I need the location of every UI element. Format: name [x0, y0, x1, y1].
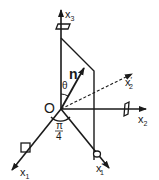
- angle-denominator: 4: [56, 131, 62, 142]
- theta-arc: [61, 94, 68, 96]
- x2-prime-label: x′2: [125, 75, 133, 90]
- x1-axis: [12, 109, 61, 170]
- angle-numerator: π: [56, 120, 63, 131]
- x1-label: x1: [20, 166, 30, 180]
- x2-label: x2: [138, 113, 148, 127]
- x1-face-marker: [21, 143, 30, 152]
- theta-label: θ: [62, 80, 68, 91]
- x1-prime-face-marker: [94, 151, 101, 157]
- x1-prime-label: x′1: [96, 161, 104, 176]
- origin-label: O: [44, 100, 55, 116]
- axes-diagram: x3 x2 x′2 x1 x′1 O n θ π 4: [0, 0, 159, 180]
- x3-face-marker: [56, 24, 70, 29]
- normal-label: n: [69, 66, 78, 82]
- x3-label: x3: [65, 8, 75, 22]
